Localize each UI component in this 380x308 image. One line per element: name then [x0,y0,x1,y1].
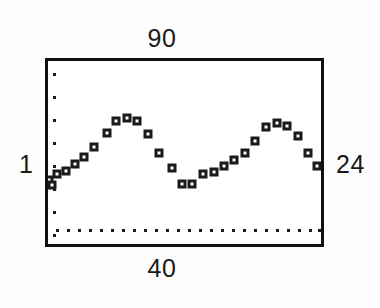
bottom-tick-dot [309,229,312,232]
data-point-marker [61,167,70,176]
scatter-plot-figure: 90 1 24 40 [0,0,380,308]
data-point-marker [230,156,239,165]
bottom-tick-dot [210,229,213,232]
bottom-tick-dot [254,229,257,232]
plot-area [48,61,321,244]
bottom-tick-dot [133,229,136,232]
bottom-tick-dot [318,229,321,232]
left-tick-dot [53,165,56,168]
plot-frame [45,58,324,247]
data-point-marker [133,117,142,126]
data-point-marker [70,160,79,169]
left-tick-dot [53,96,56,99]
data-point-marker [293,132,302,141]
bottom-tick-dot [232,229,235,232]
bottom-tick-dot [100,229,103,232]
data-point-marker [220,162,229,171]
bottom-tick-dot [111,229,114,232]
bottom-tick-dot [188,229,191,232]
data-point-marker [209,168,218,177]
data-point-marker [240,149,249,158]
bottom-tick-dot [298,229,301,232]
data-point-marker [112,117,121,126]
data-point-marker [143,130,152,139]
data-point-marker [283,122,292,131]
data-point-marker [262,123,271,132]
data-point-marker [90,143,99,152]
bottom-tick-dot [78,229,81,232]
bottom-tick-dot [276,229,279,232]
data-point-marker [178,180,187,189]
data-point-marker [48,181,56,190]
left-tick-dot [53,211,56,214]
right-axis-label: 24 [336,152,365,177]
left-tick-dot [53,119,56,122]
bottom-tick-dot [56,229,59,232]
data-point-marker [304,149,313,158]
bottom-tick-dot [155,229,158,232]
data-point-marker [154,149,163,158]
bottom-tick-dot [177,229,180,232]
bottom-tick-dot [221,229,224,232]
data-point-marker [168,164,177,173]
data-point-marker [251,137,260,146]
bottom-tick-dot [166,229,169,232]
bottom-tick-dot [199,229,202,232]
bottom-tick-dot [144,229,147,232]
left-tick-dot [53,73,56,76]
data-point-marker [79,153,88,162]
left-tick-dot [53,142,56,145]
bottom-axis-label: 40 [0,256,380,281]
left-tick-dot [53,234,56,237]
data-point-marker [188,180,197,189]
top-axis-label: 90 [0,26,380,51]
data-point-marker [199,170,208,179]
left-axis-label: 1 [19,152,33,177]
data-point-marker [122,114,131,123]
bottom-tick-dot [122,229,125,232]
data-point-marker [272,119,281,128]
bottom-tick-dot [265,229,268,232]
bottom-tick-dot [243,229,246,232]
data-point-marker [312,162,321,171]
bottom-tick-dot [89,229,92,232]
bottom-tick-dot [67,229,70,232]
data-point-marker [102,129,111,138]
bottom-tick-dot [287,229,290,232]
